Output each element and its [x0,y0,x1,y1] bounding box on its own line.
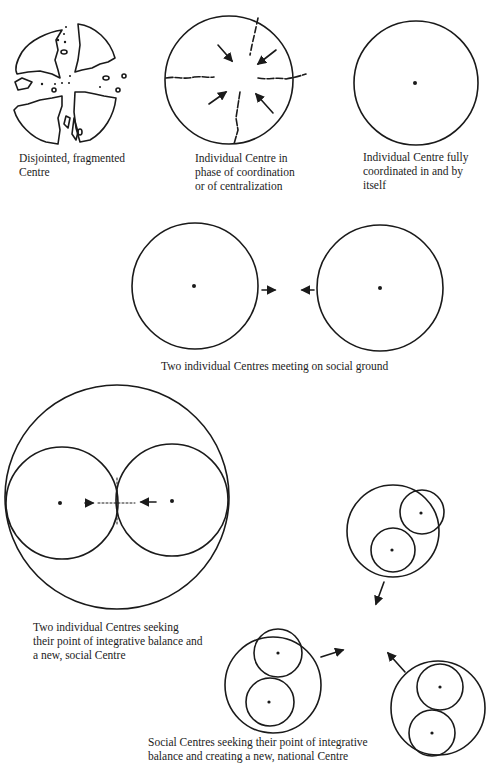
caption-line: Two individual Centres meeting on social… [161,359,388,373]
caption-meeting: Two individual Centres meeting on social… [161,359,388,373]
meeting-centres-shape [132,223,443,351]
fragmented-centre-shape [14,24,126,144]
caption-coordinated: Individual Centre fully coordinated in a… [363,150,468,192]
caption-line: itself [363,178,468,192]
national-centres-shape [225,485,485,756]
caption-line: coordinated in and by [363,164,468,178]
caption-integrative: Two individual Centres seeking their poi… [33,620,203,662]
caption-line: or of centralization [195,179,295,193]
caption-line: balance and creating a new, national Cen… [148,749,368,763]
caption-line: Social Centres seeking their point of in… [148,735,368,749]
caption-national: Social Centres seeking their point of in… [148,735,368,763]
caption-line: a new, social Centre [33,648,203,662]
caption-line: their point of integrative balance and [33,634,203,648]
caption-line: Individual Centre in [195,151,295,165]
caption-line: Centre [19,165,125,179]
integrative-centres-shape [5,385,229,609]
caption-line: Disjointed, fragmented [19,151,125,165]
caption-coordination: Individual Centre in phase of coordinati… [195,151,295,193]
coordination-centre-shape [165,16,306,144]
caption-line: Two individual Centres seeking [33,620,203,634]
caption-line: Individual Centre fully [363,150,468,164]
caption-line: phase of coordination [195,165,295,179]
caption-fragmented: Disjointed, fragmented Centre [19,151,125,179]
